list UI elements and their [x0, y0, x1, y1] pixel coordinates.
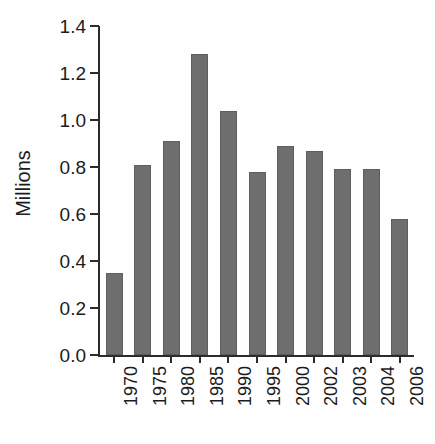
y-axis-tick-mark — [90, 119, 99, 121]
x-axis-tick-label: 2002 — [322, 366, 340, 436]
x-axis-tick-mark — [227, 357, 229, 363]
y-axis-tick-label: 0.8 — [38, 158, 86, 177]
y-axis-tick-mark — [90, 307, 99, 309]
y-axis-tick-mark — [90, 166, 99, 168]
x-axis-tick-labels: 1970197519801985199019952000200220032004… — [100, 356, 414, 444]
x-axis-tick-mark — [399, 357, 401, 363]
bar — [163, 141, 180, 355]
x-axis-tick-label: 2006 — [408, 366, 426, 436]
bar — [191, 54, 208, 355]
y-axis-tick-label: 1.2 — [38, 64, 86, 83]
x-axis-tick-mark — [342, 357, 344, 363]
x-axis-tick-label: 2004 — [379, 366, 397, 436]
x-axis-tick-mark — [142, 357, 144, 363]
bar — [334, 169, 351, 355]
y-axis-tick-label: 0.4 — [38, 252, 86, 271]
y-axis-tick-mark — [90, 213, 99, 215]
x-axis-tick-label: 1985 — [208, 366, 226, 436]
x-axis-tick-mark — [256, 357, 258, 363]
bar — [306, 151, 323, 355]
x-axis-tick-mark — [113, 357, 115, 363]
y-axis-tick-label: 0.2 — [38, 299, 86, 318]
x-axis-tick-label: 1980 — [179, 366, 197, 436]
y-axis-tick-label: 0.0 — [38, 346, 86, 365]
y-axis-tick-labels: 0.00.20.40.60.81.01.21.4 — [38, 0, 86, 444]
bar — [391, 219, 408, 355]
bar — [249, 172, 266, 355]
x-axis-tick-mark — [170, 357, 172, 363]
x-axis-tick-mark — [313, 357, 315, 363]
y-axis-tick-label: 0.6 — [38, 205, 86, 224]
plot-area — [100, 0, 414, 356]
bar — [277, 146, 294, 355]
bar — [134, 165, 151, 355]
bar — [220, 111, 237, 355]
x-axis-tick-mark — [370, 357, 372, 363]
y-axis-tick-mark — [90, 25, 99, 27]
y-axis-tick-mark — [90, 354, 99, 356]
x-axis-tick-label: 1975 — [151, 366, 169, 436]
bar — [106, 273, 123, 355]
x-axis-tick-label: 1970 — [122, 366, 140, 436]
y-axis-tick-mark — [90, 260, 99, 262]
x-axis-tick-label: 2000 — [294, 366, 312, 436]
y-axis-tick-mark — [90, 72, 99, 74]
bar — [363, 169, 380, 355]
y-axis-tick-label: 1.4 — [38, 17, 86, 36]
x-axis-tick-label: 2003 — [351, 366, 369, 436]
x-axis-tick-label: 1990 — [236, 366, 254, 436]
x-axis-tick-mark — [199, 357, 201, 363]
y-axis-tick-label: 1.0 — [38, 111, 86, 130]
bar-chart: Millions 0.00.20.40.60.81.01.21.4 197019… — [0, 0, 435, 444]
x-axis-tick-mark — [285, 357, 287, 363]
x-axis-tick-label: 1995 — [265, 366, 283, 436]
y-axis-title-label: Millions — [12, 150, 35, 217]
